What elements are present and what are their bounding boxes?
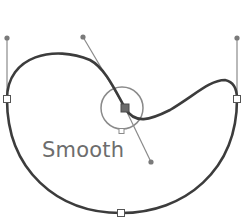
selected-smooth-anchor-point[interactable] <box>121 104 129 112</box>
smooth-label: Smooth <box>42 140 124 161</box>
right-anchor-point[interactable] <box>234 96 241 103</box>
smooth-handle-in-endpoint[interactable] <box>80 34 85 39</box>
smooth-handle-out-line <box>125 108 151 162</box>
left-handle-endpoint[interactable] <box>4 35 9 40</box>
circle-bottom-marker <box>119 129 124 134</box>
left-anchor-point[interactable] <box>4 96 11 103</box>
bezier-path-diagram <box>0 0 244 222</box>
bottom-anchor-point[interactable] <box>118 210 125 217</box>
smooth-handle-out-endpoint[interactable] <box>148 159 153 164</box>
right-handle-endpoint[interactable] <box>234 35 239 40</box>
